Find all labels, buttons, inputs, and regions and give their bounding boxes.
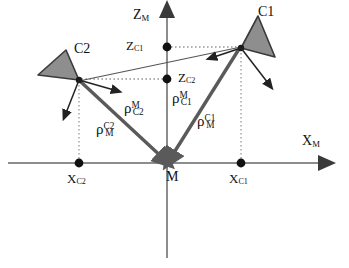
camera-c1-frustum [241, 16, 275, 57]
marked-points [75, 43, 246, 168]
baseline-c2-c1 [79, 47, 241, 81]
axis-label-x: XM [302, 134, 320, 148]
vector-label-rho-c2-m: ρC2M [96, 122, 114, 138]
point-z-c2 [163, 75, 172, 84]
point-x-c1 [237, 159, 246, 168]
camera-c2-frustum [38, 50, 79, 80]
vector-label-rho-m-c2: ρMC2 [124, 101, 144, 117]
axis-label-z: ZM [133, 8, 149, 22]
camera-label-c1: C1 [258, 5, 274, 19]
vector-c2-m [81, 82, 165, 160]
point-label-origin-m: M [166, 170, 178, 184]
point-label-x-c2: XC2 [67, 172, 86, 187]
stereo-geometry-figure: ZM XM ZC1 ZC2 XC1 XC2 M C2 C1 ρMC2 ρC2M … [0, 0, 349, 268]
point-label-x-c1: XC1 [229, 172, 248, 187]
vector-label-rho-c1-m: ρC1M [197, 114, 215, 130]
point-label-z-c1: ZC1 [126, 39, 143, 54]
point-label-z-c2: ZC2 [178, 71, 195, 86]
camera-label-c2: C2 [74, 42, 90, 56]
vector-arrows [81, 49, 239, 160]
camera-c2-axis-down [66, 80, 79, 113]
diagram-canvas [0, 0, 349, 268]
point-x-c2 [75, 159, 84, 168]
vector-label-rho-m-c1: ρMC1 [172, 91, 192, 107]
point-z-c1 [163, 43, 172, 52]
